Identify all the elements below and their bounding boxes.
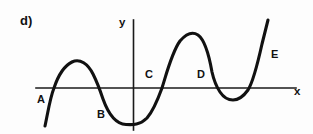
x-axis-label: x xyxy=(294,86,300,98)
point-label-d: D xyxy=(197,69,205,80)
graph-canvas xyxy=(0,0,313,134)
graph-figure: d) y x A B C D E xyxy=(0,0,313,134)
point-label-a: A xyxy=(37,94,45,105)
point-label-b: B xyxy=(97,109,105,120)
point-label-e: E xyxy=(271,49,279,60)
point-label-c: C xyxy=(145,69,153,80)
part-label-d: d) xyxy=(20,14,32,27)
y-axis-label: y xyxy=(119,17,125,29)
function-curve xyxy=(45,20,268,126)
